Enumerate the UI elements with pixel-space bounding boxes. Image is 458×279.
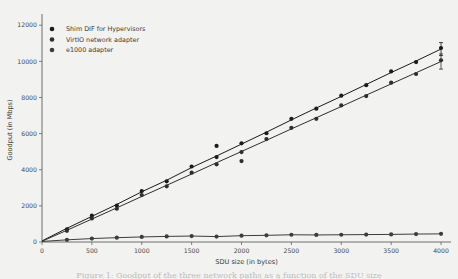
data-point (339, 94, 343, 98)
legend-label-2: VirtIO network adapter (66, 36, 139, 44)
x-tick-label: 4000 (433, 247, 449, 254)
data-point (115, 207, 119, 211)
data-point (90, 236, 94, 240)
x-tick-label: 500 (86, 247, 98, 254)
data-point (165, 234, 169, 238)
data-point (439, 232, 443, 236)
data-point (239, 141, 243, 145)
legend-label-3: e1000 adapter (66, 46, 114, 54)
data-point (214, 155, 218, 159)
y-axis-title: Goodput (in Mbps) (6, 99, 14, 160)
data-point (264, 137, 268, 141)
data-point (65, 229, 69, 233)
x-axis-title: SDU size (in bytes) (215, 258, 277, 266)
legend-label-1: Shim DIF for Hypervisors (66, 25, 146, 33)
y-tick-label: 8000 (21, 94, 37, 101)
data-point (314, 107, 318, 111)
data-point (264, 233, 268, 237)
data-point (239, 150, 243, 154)
data-point (339, 103, 343, 107)
x-tick-label: 0 (40, 247, 44, 254)
data-point (414, 72, 418, 76)
data-point (364, 232, 368, 236)
data-point (65, 238, 69, 242)
y-tick-label: 6000 (21, 130, 37, 137)
y-tick-label: 0 (33, 238, 37, 245)
data-point (190, 234, 194, 238)
data-point (190, 171, 194, 175)
data-point (389, 81, 393, 85)
data-point (165, 184, 169, 188)
x-tick-label: 3000 (333, 247, 349, 254)
data-point (414, 232, 418, 236)
data-point (239, 234, 243, 238)
x-tick-label: 2500 (284, 247, 300, 254)
data-point (190, 164, 194, 168)
legend-marker-2 (50, 37, 55, 42)
data-point (214, 234, 218, 238)
x-tick-label: 3500 (383, 247, 399, 254)
data-point (364, 83, 368, 87)
figure-container: 020004000600080001000012000 050010001500… (0, 0, 458, 279)
data-point (314, 117, 318, 121)
data-point (339, 233, 343, 237)
y-tick-label: 2000 (21, 202, 37, 209)
x-tick-label: 1500 (184, 247, 200, 254)
y-tick-label: 10000 (17, 58, 37, 65)
data-point (140, 235, 144, 239)
data-point (389, 69, 393, 73)
data-point (140, 189, 144, 193)
x-tick-label: 1000 (134, 247, 150, 254)
x-tick-label: 2000 (234, 247, 250, 254)
y-tick-label: 4000 (21, 166, 37, 173)
data-point (90, 216, 94, 220)
data-point (115, 236, 119, 240)
data-point (389, 232, 393, 236)
data-point (289, 126, 293, 130)
data-point (140, 193, 144, 197)
legend-marker-1 (50, 27, 55, 32)
data-point (165, 179, 169, 183)
data-point (364, 94, 368, 98)
data-point (289, 117, 293, 121)
data-point (314, 233, 318, 237)
y-tick-label: 12000 (17, 21, 37, 28)
data-point (414, 60, 418, 64)
goodput-scatter-chart: 020004000600080001000012000 050010001500… (0, 0, 458, 279)
data-point (264, 131, 268, 135)
data-point (289, 233, 293, 237)
data-point (239, 159, 243, 163)
data-point (214, 162, 218, 166)
legend-marker-3 (50, 48, 55, 53)
figure-caption: Figure 1: Goodput of the three network p… (76, 271, 382, 279)
data-point (214, 144, 218, 148)
